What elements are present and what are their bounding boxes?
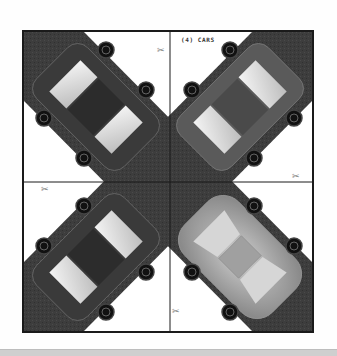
cars-x-layout — [24, 32, 312, 331]
scissors-icon: ✂ — [172, 307, 180, 316]
scissors-icon: ✂ — [292, 172, 300, 181]
scissors-icon: ✂ — [157, 46, 165, 55]
scissors-icon: ✂ — [41, 185, 49, 194]
template-frame: (4) CARS ✂ ✂ ✂ ✂ — [22, 30, 314, 333]
title-label: (4) CARS — [181, 36, 215, 43]
bottom-band — [0, 349, 337, 356]
